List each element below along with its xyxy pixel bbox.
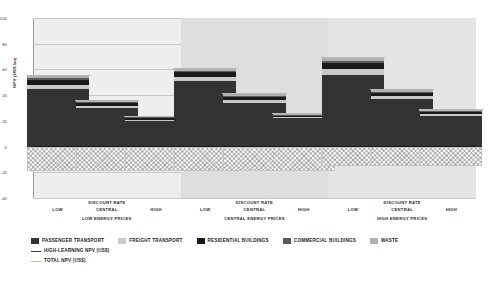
legend-label: WASTE xyxy=(381,239,398,244)
legend-swatch-icon xyxy=(118,238,126,244)
bar-segment xyxy=(420,114,482,115)
energy-price-group-label: LOW ENERGY PRICES xyxy=(33,216,181,221)
legend-swatch-icon xyxy=(283,238,291,244)
legend-label: HIGH-LEARNING NPV (US$) xyxy=(44,249,110,254)
legend-line-icon xyxy=(31,261,41,262)
x-axis-tick: LOW xyxy=(181,207,230,212)
energy-price-group-label: HIGH ENERGY PRICES xyxy=(328,216,476,221)
legend-label: COMMERCIAL BUILDINGS xyxy=(294,239,356,244)
legend-line-row-1: HIGH-LEARNING NPV (US$) xyxy=(31,246,481,256)
chart-figure: NPV (US$ bn) 100806040200-20-40 DISCOUNT… xyxy=(0,0,488,291)
y-axis-tick: 80 xyxy=(2,41,7,46)
legend-item[interactable]: FREIGHT TRANSPORT xyxy=(118,238,182,244)
plot-area xyxy=(33,18,476,198)
x-axis-title: DISCOUNT RATE xyxy=(33,200,181,205)
y-axis-tick: -20 xyxy=(1,170,7,175)
gridline xyxy=(33,198,476,199)
bar-segment xyxy=(420,116,482,147)
x-axis-title: DISCOUNT RATE xyxy=(181,200,329,205)
legend-swatch-icon xyxy=(31,238,39,244)
legend-swatch-icon xyxy=(197,238,205,244)
y-axis-title: NPV (US$ bn) xyxy=(12,57,17,88)
discount-rate-ticks: LOWCENTRALHIGH xyxy=(328,207,476,212)
legend-line-icon xyxy=(31,251,41,252)
energy-price-group-label: CENTRAL ENERGY PRICES xyxy=(181,216,329,221)
x-axis-labels: DISCOUNT RATELOWCENTRALHIGHLOW ENERGY PR… xyxy=(33,200,476,234)
legend-item[interactable]: PASSENGER TRANSPORT xyxy=(31,238,104,244)
legend-swatch-row: PASSENGER TRANSPORTFREIGHT TRANSPORTRESI… xyxy=(31,236,481,246)
x-axis-tick: HIGH xyxy=(131,207,180,212)
legend-line-row-2: TOTAL NPV (US$) xyxy=(31,256,481,266)
x-axis-title: DISCOUNT RATE xyxy=(328,200,476,205)
x-axis-tick: HIGH xyxy=(279,207,328,212)
x-axis-tick: LOW xyxy=(328,207,377,212)
legend-label: RESIDENTIAL BUILDINGS xyxy=(208,239,269,244)
x-axis-tick: CENTRAL xyxy=(378,207,427,212)
bar-segment xyxy=(420,112,482,115)
legend-item[interactable]: WASTE xyxy=(370,238,398,244)
negative-npv-block xyxy=(420,147,482,166)
y-axis-tick: 40 xyxy=(2,93,7,98)
legend-label: TOTAL NPV (US$) xyxy=(44,259,86,264)
legend-swatch-icon xyxy=(370,238,378,244)
legend-label: FREIGHT TRANSPORT xyxy=(129,239,182,244)
legend-label: PASSENGER TRANSPORT xyxy=(42,239,104,244)
x-axis-tick: HIGH xyxy=(427,207,476,212)
total-npv-marker xyxy=(419,109,483,110)
discount-rate-ticks: LOWCENTRALHIGH xyxy=(33,207,181,212)
legend-item[interactable]: COMMERCIAL BUILDINGS xyxy=(283,238,356,244)
x-axis-tick: LOW xyxy=(33,207,82,212)
x-axis-tick: CENTRAL xyxy=(230,207,279,212)
y-axis-tick: 0 xyxy=(5,144,7,149)
bar-group-column xyxy=(420,18,482,198)
y-axis-tick: 100 xyxy=(0,16,7,21)
x-axis-tick: CENTRAL xyxy=(82,207,131,212)
legend-item[interactable]: TOTAL NPV (US$) xyxy=(31,259,86,264)
bar-segment xyxy=(420,111,482,112)
discount-rate-ticks: LOWCENTRALHIGH xyxy=(181,207,329,212)
legend-item[interactable]: HIGH-LEARNING NPV (US$) xyxy=(31,249,110,254)
y-axis-tick: 20 xyxy=(2,118,7,123)
chart-legend: PASSENGER TRANSPORTFREIGHT TRANSPORTRESI… xyxy=(31,236,481,266)
y-axis-tick: 60 xyxy=(2,67,7,72)
zero-line xyxy=(33,146,476,148)
y-axis-tick: -40 xyxy=(1,196,7,201)
legend-item[interactable]: RESIDENTIAL BUILDINGS xyxy=(197,238,269,244)
